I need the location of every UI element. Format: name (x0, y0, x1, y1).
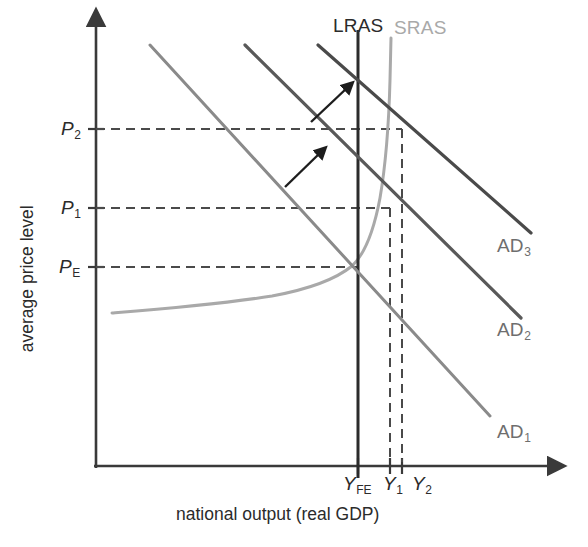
y-tick-label-pe-sub: E (72, 266, 80, 280)
y-tick-label-pe: PE (59, 257, 80, 276)
ad2-label: AD2 (497, 320, 531, 339)
x-tick-label-y2-sub: 2 (425, 483, 432, 497)
ad1-label-sub: 1 (524, 431, 531, 445)
y-tick-label-p1: P1 (61, 198, 80, 217)
x-tick-label-yfe-base: Y (343, 473, 356, 494)
lras-label: LRAS (333, 16, 383, 35)
guideline-group (96, 129, 402, 462)
y-tick-label-p1-base: P (61, 197, 74, 218)
x-tick-label-y1: Y1 (383, 474, 402, 493)
shift-arrow-ad2-ad3 (311, 88, 347, 122)
y-tick-label-pe-base: P (59, 256, 72, 277)
x-tick-label-y2-base: Y (412, 473, 425, 494)
ad2-label-base: AD (497, 319, 524, 340)
ad1-line (150, 45, 490, 416)
ad3-label-base: AD (497, 235, 524, 256)
x-axis-title: national output (real GDP) (176, 506, 379, 524)
diagram-canvas: average price level national output (rea… (0, 0, 588, 547)
x-tick-label-y2: Y2 (412, 474, 431, 493)
y-tick-label-p1-sub: 1 (74, 207, 81, 221)
y-tick-label-p2-sub: 2 (74, 128, 81, 142)
ad1-label: AD1 (497, 422, 531, 441)
ad3-line (318, 45, 531, 233)
ad3-label-sub: 3 (524, 245, 531, 259)
y-axis-title: average price level (19, 169, 37, 389)
ad1-label-base: AD (497, 421, 524, 442)
x-tick-label-yfe: YFE (343, 474, 371, 493)
ad-as-diagram-svg (0, 0, 588, 547)
x-tick-label-y1-sub: 1 (396, 483, 403, 497)
ad3-label: AD3 (497, 236, 531, 255)
sras-curve (112, 38, 391, 313)
x-tick-label-yfe-sub: FE (356, 483, 371, 497)
ad2-line (245, 45, 521, 318)
y-tick-label-p2-base: P (61, 118, 74, 139)
axis-group (94, 22, 552, 468)
y-tick-label-p2: P2 (61, 119, 80, 138)
sras-label: SRAS (394, 18, 447, 37)
x-tick-label-y1-base: Y (383, 473, 396, 494)
shift-arrow-ad1-ad2 (285, 153, 320, 187)
ad2-label-sub: 2 (524, 329, 531, 343)
